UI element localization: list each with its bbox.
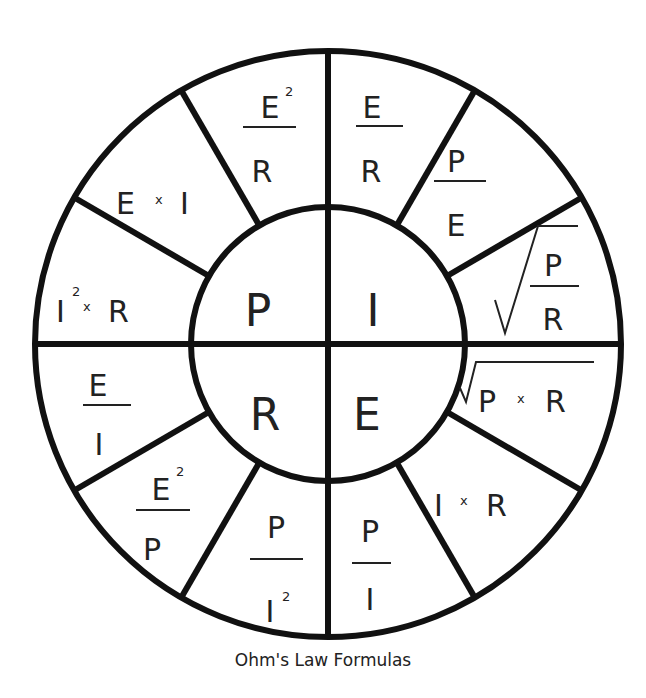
ohms-law-wheel: P I R E I 2 x R E x I E 2 R E R P E P R … bbox=[0, 0, 646, 698]
seg-I2-den: R bbox=[543, 302, 564, 337]
seg-I2-num: P bbox=[544, 248, 562, 283]
center-P: P bbox=[245, 285, 272, 336]
seg-R0-sup: 2 bbox=[282, 589, 290, 604]
seg-P0-rhs: R bbox=[108, 294, 129, 329]
seg-E0-lhs: P bbox=[478, 384, 496, 419]
seg-R2-den: I bbox=[95, 427, 104, 462]
spoke bbox=[75, 198, 209, 276]
seg-E1-lhs: I bbox=[434, 488, 443, 523]
seg-I0-num: E bbox=[363, 90, 382, 125]
seg-I0-den: R bbox=[361, 154, 382, 189]
seg-P0-sup: 2 bbox=[72, 284, 80, 299]
seg-P2-num: E bbox=[261, 90, 280, 125]
diagram-caption: Ohm's Law Formulas bbox=[0, 650, 646, 670]
spoke bbox=[181, 463, 259, 598]
seg-E0-op: x bbox=[517, 391, 525, 406]
seg-R1-sup: 2 bbox=[176, 464, 184, 479]
seg-R0-den: I bbox=[266, 594, 275, 629]
seg-R2-num: E bbox=[89, 368, 108, 403]
seg-E2-den: I bbox=[366, 582, 375, 617]
seg-P1-lhs: E bbox=[116, 186, 135, 221]
seg-P0-base: I bbox=[56, 294, 65, 329]
spoke bbox=[181, 90, 259, 225]
seg-E1-rhs: R bbox=[486, 488, 507, 523]
seg-E0-rhs: R bbox=[545, 384, 566, 419]
seg-P1-op: x bbox=[155, 192, 163, 207]
seg-R1-num: E bbox=[152, 472, 171, 507]
center-E: E bbox=[353, 389, 381, 440]
seg-E2-num: P bbox=[361, 514, 379, 549]
center-I: I bbox=[367, 285, 380, 336]
seg-P0-op: x bbox=[83, 299, 91, 314]
seg-I1-den: E bbox=[447, 208, 466, 243]
center-R: R bbox=[250, 389, 281, 440]
spoke bbox=[447, 412, 581, 490]
seg-R0-num: P bbox=[267, 510, 285, 545]
seg-P2-den: R bbox=[252, 154, 273, 189]
seg-R1-den: P bbox=[143, 532, 161, 567]
seg-E1-op: x bbox=[460, 493, 468, 508]
spoke bbox=[397, 463, 475, 598]
seg-P2-sup: 2 bbox=[285, 84, 293, 99]
seg-I1-num: P bbox=[447, 144, 465, 179]
seg-P1-rhs: I bbox=[180, 186, 189, 221]
